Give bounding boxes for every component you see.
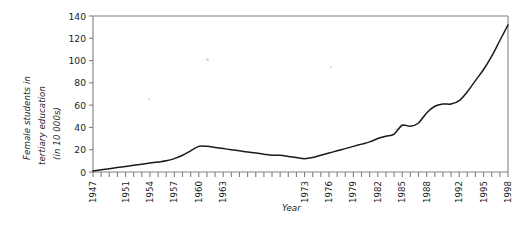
x-tick-label: 1947	[88, 179, 98, 205]
x-tick-label: 1963	[218, 179, 228, 205]
x-tick-label: 1998	[503, 179, 513, 205]
x-tick-label: 1979	[348, 179, 358, 205]
x-tick-label: 1973	[300, 179, 310, 205]
x-tick-label: 1954	[145, 179, 155, 205]
chart-container: Female students in tertiary education (i…	[0, 0, 524, 229]
plot-area	[0, 0, 524, 229]
x-tick-label: 1985	[397, 179, 407, 205]
scan-speck	[206, 58, 209, 61]
x-tick-label: 1951	[121, 179, 131, 205]
x-tick-label: 1976	[324, 179, 334, 205]
x-tick-label: 1995	[479, 179, 489, 205]
x-tick-label: 1957	[169, 179, 179, 205]
x-axis-title: Year	[282, 203, 301, 213]
x-tick-label: 1988	[422, 179, 432, 205]
scan-speck	[330, 66, 332, 68]
x-tick-label: 1982	[373, 179, 383, 205]
x-tick-label: 1992	[454, 179, 464, 205]
x-tick-label: 1960	[194, 179, 204, 205]
scan-speck	[395, 128, 397, 130]
scan-speck	[148, 98, 150, 100]
